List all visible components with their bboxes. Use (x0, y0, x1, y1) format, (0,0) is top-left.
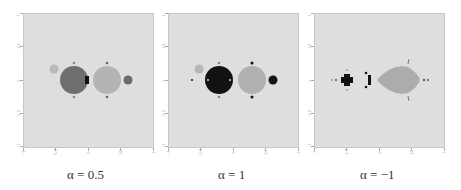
x-tick-label: 1/2 (409, 148, 414, 158)
y-tick-label: 1/2 (307, 43, 312, 51)
caption-alpha-neg1: α = −1 (360, 167, 394, 183)
x-tick-label: -1 (21, 148, 26, 158)
panel-alpha-0-5: 1 1/2 0 -1/2 -1 -1 -1/2 0 1/2 1 (23, 13, 154, 148)
y-tick-label: 0 (16, 77, 21, 85)
fractal-image (314, 13, 445, 148)
y-tick-label: 1 (16, 12, 21, 20)
y-tick-label: 0 (161, 77, 166, 85)
fractal-image (23, 13, 154, 148)
x-tick-label: 1 (296, 148, 301, 158)
y-tick-label: -1/2 (307, 110, 312, 118)
x-tick-label: 0 (86, 148, 91, 158)
x-tick-label: -1 (166, 148, 171, 158)
y-tick-label: -1/2 (161, 110, 166, 118)
x-tick-label: 1 (151, 148, 156, 158)
fractal-image (168, 13, 299, 148)
y-tick-label: -1/2 (16, 110, 21, 118)
y-tick-label: 1/2 (161, 43, 166, 51)
panel-alpha-neg1: 1 1/2 0 -1/2 -1 -1 -1/2 0 1/2 1 (314, 13, 445, 148)
caption-alpha-1: α = 1 (218, 167, 245, 183)
x-tick-label: -1/2 (344, 148, 349, 158)
x-tick-label: 1/2 (118, 148, 123, 158)
x-tick-label: -1/2 (198, 148, 203, 158)
x-tick-label: 0 (377, 148, 382, 158)
x-tick-label: -1 (312, 148, 317, 158)
y-tick-label: 0 (307, 77, 312, 85)
y-tick-label: 1/2 (16, 43, 21, 51)
caption-alpha-0-5: α = 0.5 (67, 167, 104, 183)
x-tick-label: -1/2 (53, 148, 58, 158)
y-tick-label: 1 (161, 12, 166, 20)
x-tick-label: 1/2 (263, 148, 268, 158)
x-tick-label: 1 (442, 148, 447, 158)
x-tick-label: 0 (231, 148, 236, 158)
y-tick-label: 1 (307, 12, 312, 20)
panel-alpha-1: 1 1/2 0 -1/2 -1 -1 -1/2 0 1/2 1 (168, 13, 299, 148)
